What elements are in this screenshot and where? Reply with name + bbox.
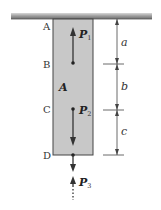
dimension-label-c: c: [121, 125, 127, 138]
force-p3: P3: [70, 153, 91, 200]
bar-diagram: A B C D A P1 P2 P3: [0, 0, 161, 210]
dimension-label-b: b: [121, 80, 128, 93]
area-label: A: [58, 81, 68, 94]
dimension-label-a: a: [121, 36, 128, 49]
p3-label: P3: [78, 176, 91, 190]
p3-up-arrow-icon: [70, 176, 76, 184]
ceiling-support: [11, 13, 152, 19]
point-label-a: A: [42, 21, 51, 32]
point-label-b: B: [43, 59, 50, 70]
point-label-d: D: [43, 150, 51, 161]
point-label-c: C: [43, 104, 51, 115]
